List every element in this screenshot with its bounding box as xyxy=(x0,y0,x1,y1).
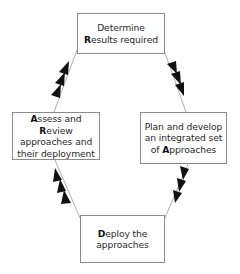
label-text: approaches xyxy=(96,239,148,250)
node-label: Plan and developan integrated setof Appr… xyxy=(145,121,223,156)
arrowhead-icon xyxy=(177,178,186,192)
node-label-line: Determine xyxy=(84,22,158,34)
node-label: Assess and Reviewapproaches andtheir dep… xyxy=(13,113,99,159)
arrowhead-icon xyxy=(53,168,62,182)
node-label-line: their deployment xyxy=(13,148,99,160)
node-label: DetermineResults required xyxy=(84,22,158,45)
label-text: Determine xyxy=(97,22,145,33)
node-determine-results: DetermineResults required xyxy=(77,13,165,54)
node-plan-approaches: Plan and developan integrated setof Appr… xyxy=(140,112,227,164)
arrowhead-icon xyxy=(173,190,182,203)
radar-letter: R xyxy=(84,34,91,45)
arrowhead-icon xyxy=(57,179,66,193)
node-label-line: Results required xyxy=(84,34,158,46)
arrowhead-icon xyxy=(51,84,61,98)
label-text: approaches and xyxy=(20,136,92,147)
edge-results-to-plan xyxy=(164,50,186,112)
arrowhead-icon xyxy=(59,61,69,75)
arrowhead-icon xyxy=(180,166,189,180)
arrowhead-icon xyxy=(61,190,71,204)
radar-cycle-diagram: DetermineResults required Plan and devel… xyxy=(0,0,240,274)
edge-deploy-to-assess xyxy=(53,160,80,218)
node-label-line: of Approaches xyxy=(145,144,223,156)
node-label-line: approaches and xyxy=(13,136,99,148)
label-text: an integrated set xyxy=(145,132,223,143)
node-label: Deploy theapproaches xyxy=(96,228,148,251)
arrowhead-icon xyxy=(55,72,65,86)
label-text: of xyxy=(151,144,162,155)
node-label-line: an integrated set xyxy=(145,132,223,144)
label-text: pproaches xyxy=(169,144,216,155)
label-text: esults required xyxy=(91,34,158,45)
label-text: eploy the xyxy=(105,228,147,239)
label-text: eview xyxy=(46,125,72,136)
node-assess-review: Assess and Reviewapproaches andtheir dep… xyxy=(12,112,100,160)
node-label-line: Deploy the xyxy=(96,228,148,240)
node-deploy-approaches: Deploy theapproaches xyxy=(80,215,165,263)
label-text: Plan and develop xyxy=(145,121,223,132)
node-label-line: Plan and develop xyxy=(145,121,223,133)
edge-assess-to-results xyxy=(51,50,77,112)
label-text: their deployment xyxy=(17,148,95,159)
node-label-line: Assess and Review xyxy=(13,113,99,136)
label-text: ssess and xyxy=(37,113,81,124)
node-label-line: approaches xyxy=(96,239,148,251)
edge-plan-to-deploy xyxy=(164,164,189,220)
